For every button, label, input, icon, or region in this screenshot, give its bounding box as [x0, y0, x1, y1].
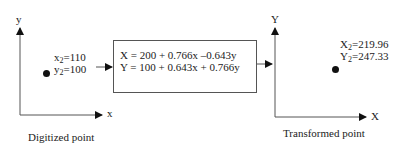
- x-var-value: =110: [64, 51, 86, 63]
- right-x-axis-label: X: [371, 110, 379, 123]
- coordinate-transform-diagram: y x x2=110 y2=100 Digitized point X = 20…: [0, 0, 400, 150]
- y-var-value: =100: [64, 63, 87, 75]
- transformed-point-dot: [332, 66, 339, 73]
- left-y-axis-label: y: [16, 13, 22, 26]
- digitized-point-dot: [43, 70, 50, 77]
- X-var-value: =219.96: [352, 38, 388, 50]
- digitized-point-caption: Digitized point: [28, 131, 94, 144]
- left-x-axis-label: x: [107, 107, 113, 120]
- equation-y: Y = 100 + 0.643x + 0.766y: [120, 61, 240, 74]
- Y-var-name: Y: [340, 50, 348, 62]
- X-var-name: X: [340, 38, 348, 50]
- output-y-value: Y2=247.33: [340, 50, 388, 63]
- right-y-axis-label: Y: [271, 13, 279, 26]
- input-y-value: y2=100: [54, 63, 86, 76]
- transformed-point-caption: Transformed point: [283, 127, 365, 140]
- Y-var-value: =247.33: [352, 50, 388, 62]
